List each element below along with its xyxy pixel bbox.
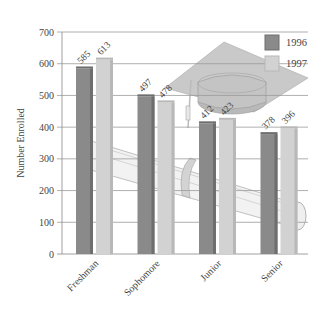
legend-label: 1996 <box>286 37 307 48</box>
x-tick-label: Freshman <box>65 258 101 294</box>
y-tick-label: 200 <box>39 185 54 196</box>
chart-canvas: 0100200300400500600700Number Enrolled585… <box>0 0 322 313</box>
x-tick-label: Sophomore <box>122 257 163 298</box>
data-label: 585 <box>75 49 92 66</box>
y-tick-label: 300 <box>39 153 54 164</box>
y-tick-label: 0 <box>49 249 54 260</box>
data-label: 497 <box>137 76 154 93</box>
y-axis-label: Number Enrolled <box>15 108 26 178</box>
y-tick-label: 100 <box>39 217 54 228</box>
y-tick-label: 700 <box>39 27 54 38</box>
legend: 19961997 <box>265 35 307 71</box>
enrollment-bar-chart: 0100200300400500600700Number Enrolled585… <box>0 0 322 313</box>
legend-label: 1997 <box>286 58 307 69</box>
bar-group-senior: 378396Senior <box>259 109 298 284</box>
data-label: 396 <box>280 109 297 126</box>
bar-group-sophomore: 497478Sophomore <box>122 76 175 298</box>
legend-swatch-1997 <box>265 56 279 71</box>
data-label: 613 <box>95 40 112 57</box>
x-tick-label: Junior <box>198 257 224 283</box>
y-tick-label: 500 <box>39 90 54 101</box>
y-tick-label: 400 <box>39 122 54 133</box>
bar-group-freshman: 585613Freshman <box>65 40 113 294</box>
data-label: 378 <box>260 114 277 131</box>
y-tick-label: 600 <box>39 58 54 69</box>
legend-swatch-1996 <box>265 35 279 50</box>
x-tick-label: Senior <box>259 257 286 284</box>
